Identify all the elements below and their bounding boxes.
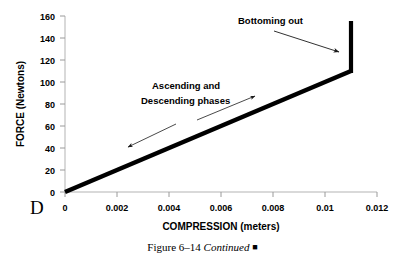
panel-letter-d: D [30, 197, 44, 218]
x-axis-title: COMPRESSION (meters) [162, 221, 279, 232]
y-tick-label-40: 40 [45, 144, 55, 154]
y-tick-label-160: 160 [40, 12, 55, 22]
x-tick-label-0.008: 0.008 [262, 203, 285, 213]
caption-continued: Continued [204, 241, 250, 253]
y-tick-label-80: 80 [45, 100, 55, 110]
y-tick-label-100: 100 [40, 78, 55, 88]
y-axis-title: FORCE (Newtons) [15, 61, 26, 147]
x-tick-label-0.006: 0.006 [210, 203, 233, 213]
ascending-phases-label-line1: Ascending and [152, 80, 220, 91]
figure-caption: Figure 6–14 Continued ■ [0, 241, 405, 253]
y-tick-label-140: 140 [40, 34, 55, 44]
y-tick-label-120: 120 [40, 56, 55, 66]
x-tick-label-0.004: 0.004 [158, 203, 181, 213]
caption-figure-number: Figure 6–14 [147, 241, 200, 253]
bottoming-out-label: Bottoming out [238, 15, 304, 26]
force-compression-chart: 160 140 120 100 80 60 40 20 0 FORCE (New… [0, 0, 405, 257]
x-tick-label-0: 0 [62, 203, 67, 213]
x-tick-label-0.002: 0.002 [106, 203, 129, 213]
y-tick-label-0: 0 [50, 188, 55, 198]
chart-background [0, 0, 405, 257]
y-tick-label-20: 20 [45, 166, 55, 176]
x-tick-label-0.01: 0.01 [316, 203, 334, 213]
x-tick-label-0.012: 0.012 [366, 203, 389, 213]
ascending-phases-label-line2: Descending phases [141, 95, 230, 106]
caption-end-marker: ■ [252, 242, 257, 252]
y-tick-label-60: 60 [45, 122, 55, 132]
figure-panel-d: 160 140 120 100 80 60 40 20 0 FORCE (New… [0, 0, 405, 257]
